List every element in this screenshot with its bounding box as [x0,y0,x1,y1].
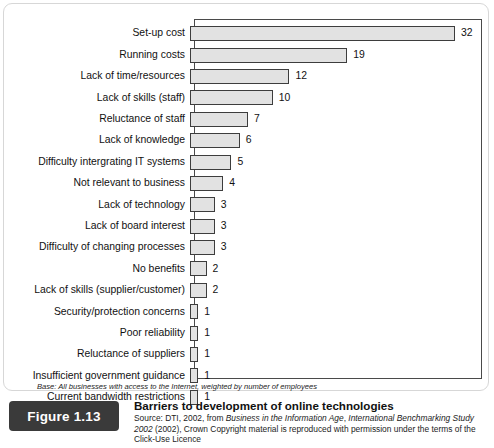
bar-value-label: 1 [204,349,210,359]
bar-row: Running costs19 [4,44,490,65]
bar [190,326,198,341]
bar-row: Reluctance of suppliers1 [4,344,490,365]
bar-category-label: Set-up cost [4,28,190,38]
bar-row: Set-up cost32 [4,23,490,44]
bar-value-label: 3 [221,221,227,231]
bar-track: 2 [190,280,490,301]
bar [190,112,248,127]
bar-category-label: Running costs [4,50,190,60]
bar-category-label: Lack of knowledge [4,135,190,145]
bar-track: 3 [190,216,490,237]
bar-row: Difficulty of changing processes3 [4,237,490,258]
bar-track: 1 [190,322,490,343]
bar [190,69,289,84]
figure-caption-text: Barriers to development of online techno… [134,399,486,445]
bar [190,133,240,148]
bar-track: 6 [190,130,490,151]
bar [190,219,215,234]
bar-track: 5 [190,151,490,172]
bar-category-label: Reluctance of staff [4,114,190,124]
bar [190,283,207,298]
bar-value-label: 1 [204,307,210,317]
source-text-a: DTI, 2002, from [163,413,226,423]
bar-value-label: 6 [246,135,252,145]
bar [190,304,198,319]
bar-category-label: Lack of skills (supplier/customer) [4,285,190,295]
bar [190,48,347,63]
bar-row: Lack of technology3 [4,194,490,215]
bar-row: Not relevant to business4 [4,173,490,194]
bar-value-label: 32 [461,28,473,38]
bar-row: Lack of knowledge6 [4,130,490,151]
figure-number-badge: Figure 1.13 [9,401,119,431]
bar-track: 7 [190,109,490,130]
bar-chart-rows: Set-up cost32Running costs19Lack of time… [4,23,490,408]
bar-value-label: 2 [213,264,219,274]
bar-category-label: Not relevant to business [4,178,190,188]
bar-category-label: Insufficient government guidance [4,371,190,381]
bar-category-label: Lack of board interest [4,221,190,231]
bar-category-label: Lack of skills (staff) [4,93,190,103]
bar-value-label: 4 [229,178,235,188]
bar-track: 2 [190,258,490,279]
bar-track: 1 [190,301,490,322]
source-label: Source: [134,413,163,423]
bar-track: 1 [190,344,490,365]
bar-value-label: 10 [279,93,291,103]
source-italic-year: 2002 [134,424,153,434]
bar [190,26,455,41]
bar-value-label: 1 [204,371,210,381]
bar-row: Lack of skills (staff)10 [4,87,490,108]
bar-value-label: 19 [353,50,365,60]
bar [190,176,223,191]
bar-category-label: Difficulty of changing processes [4,242,190,252]
bar-row: Lack of board interest3 [4,216,490,237]
bar-track: 12 [190,66,490,87]
bar [190,347,198,362]
source-italic-b: Business in the Information Age [226,413,344,423]
bar-track: 3 [190,194,490,215]
bar-track: 19 [190,44,490,65]
bar-track: 4 [190,173,490,194]
figure-caption-title: Barriers to development of online techno… [134,399,486,412]
bar-row: No benefits2 [4,258,490,279]
bar-track: 32 [190,23,490,44]
figure-caption-block: Figure 1.13 Barriers to development of o… [3,399,491,448]
bar-category-label: Lack of time/resources [4,71,190,81]
bar [190,155,231,170]
bar-value-label: 5 [237,157,243,167]
bar-track: 3 [190,237,490,258]
bar [190,90,273,105]
bar-value-label: 12 [295,71,307,81]
chart-base-note: Base: All businesses with access to the … [37,382,317,391]
figure-card: Set-up cost32Running costs19Lack of time… [3,3,489,391]
bar-value-label: 3 [221,242,227,252]
bar-value-label: 3 [221,200,227,210]
source-italic-d: International Benchmarking Study [348,413,474,423]
figure-caption-source: Source: DTI, 2002, from Business in the … [134,413,486,445]
bar-row: Lack of time/resources12 [4,66,490,87]
bar-row: Poor reliability1 [4,322,490,343]
bar-row: Security/protection concerns1 [4,301,490,322]
bar-category-label: Lack of technology [4,200,190,210]
bar-row: Difficulty intergrating IT systems5 [4,151,490,172]
bar-row: Lack of skills (supplier/customer)2 [4,280,490,301]
bar-category-label: No benefits [4,264,190,274]
bar-value-label: 7 [254,114,260,124]
bar-value-label: 1 [204,328,210,338]
bar-category-label: Security/protection concerns [4,307,190,317]
bar-category-label: Poor reliability [4,328,190,338]
bar-track: 10 [190,87,490,108]
source-text-rights: (2002), Crown Copyright material is repr… [153,424,462,434]
bar-row: Reluctance of staff7 [4,109,490,130]
bar-value-label: 2 [213,285,219,295]
bar [190,261,207,276]
bar-category-label: Reluctance of suppliers [4,349,190,359]
bar [190,197,215,212]
bar-category-label: Difficulty intergrating IT systems [4,157,190,167]
bar [190,240,215,255]
